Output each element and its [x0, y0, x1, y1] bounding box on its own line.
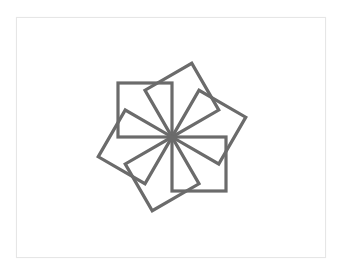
- square-2: [172, 90, 246, 164]
- rotated-squares-figure: [0, 0, 342, 278]
- square-4: [125, 137, 199, 211]
- square-5: [98, 110, 172, 184]
- square-1: [145, 63, 219, 137]
